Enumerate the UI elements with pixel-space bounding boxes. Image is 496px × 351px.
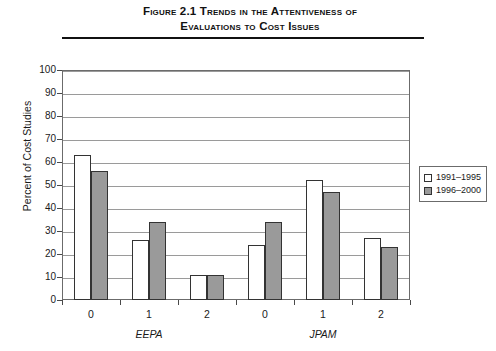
x-tick-label-JPAM-2: 2 bbox=[366, 308, 396, 320]
bar-chart: Percent of Cost Studies 0102030405060708… bbox=[0, 0, 496, 351]
legend-label-1: 1996–2000 bbox=[436, 186, 481, 195]
group-label-EEPA: EEPA bbox=[104, 328, 194, 340]
y-tick-label-80: 80 bbox=[30, 111, 56, 121]
bar-EEPA-1-1996–2000 bbox=[149, 222, 166, 300]
bar-EEPA-2-1996–2000 bbox=[207, 275, 224, 300]
bar-EEPA-0-1996–2000 bbox=[91, 171, 108, 300]
legend-item-1: 1996–2000 bbox=[424, 184, 481, 197]
bar-JPAM-0-1996–2000 bbox=[265, 222, 282, 300]
y-tick-label-40: 40 bbox=[30, 203, 56, 213]
bar-EEPA-2-1991–1995 bbox=[190, 275, 207, 300]
x-tick-label-EEPA-0: 0 bbox=[76, 308, 106, 320]
y-tick-label-60: 60 bbox=[30, 157, 56, 167]
x-tick-mark-5 bbox=[352, 300, 353, 305]
x-tick-label-JPAM-1: 1 bbox=[308, 308, 338, 320]
group-label-JPAM: JPAM bbox=[278, 328, 368, 340]
y-axis-tick-labels: 0102030405060708090100 bbox=[26, 70, 56, 300]
y-tick-label-0: 0 bbox=[30, 295, 56, 305]
y-tick-label-30: 30 bbox=[30, 226, 56, 236]
y-tick-label-20: 20 bbox=[30, 249, 56, 259]
bar-EEPA-1-1991–1995 bbox=[132, 240, 149, 300]
y-tick-label-10: 10 bbox=[30, 272, 56, 282]
x-tick-mark-6 bbox=[410, 300, 411, 305]
x-tick-label-JPAM-0: 0 bbox=[250, 308, 280, 320]
x-axis: 012012EEPAJPAM bbox=[62, 300, 410, 350]
x-tick-mark-2 bbox=[178, 300, 179, 305]
bar-EEPA-0-1991–1995 bbox=[74, 155, 91, 300]
x-tick-mark-4 bbox=[294, 300, 295, 305]
legend-swatch-icon-1 bbox=[424, 187, 432, 195]
legend-swatch-icon-0 bbox=[424, 174, 432, 182]
bar-JPAM-0-1991–1995 bbox=[248, 245, 265, 300]
y-tick-label-70: 70 bbox=[30, 134, 56, 144]
x-tick-mark-3 bbox=[236, 300, 237, 305]
y-tick-label-50: 50 bbox=[30, 180, 56, 190]
x-tick-mark-0 bbox=[62, 300, 63, 305]
bar-JPAM-2-1996–2000 bbox=[381, 247, 398, 300]
x-tick-mark-1 bbox=[120, 300, 121, 305]
y-tick-label-100: 100 bbox=[30, 65, 56, 75]
legend-item-0: 1991–1995 bbox=[424, 171, 481, 184]
bars-layer bbox=[62, 70, 410, 300]
bar-JPAM-2-1991–1995 bbox=[364, 238, 381, 300]
x-tick-label-EEPA-2: 2 bbox=[192, 308, 222, 320]
y-tick-label-90: 90 bbox=[30, 88, 56, 98]
bar-JPAM-1-1991–1995 bbox=[306, 180, 323, 300]
legend-label-0: 1991–1995 bbox=[436, 173, 481, 182]
legend: 1991–19951996–2000 bbox=[419, 166, 487, 202]
x-tick-label-EEPA-1: 1 bbox=[134, 308, 164, 320]
bar-JPAM-1-1996–2000 bbox=[323, 192, 340, 300]
